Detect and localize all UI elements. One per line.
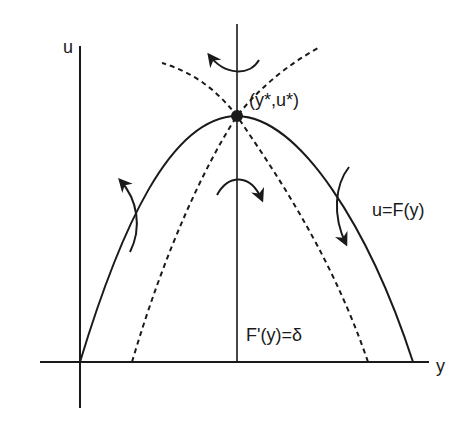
flow-arrow-top [209, 55, 259, 71]
equilibrium-point [231, 110, 243, 122]
curve-label: u=F(y) [372, 200, 425, 220]
flow-arrow-middle [217, 179, 262, 200]
u-axis-label: u [63, 37, 73, 57]
equilibrium-label: (y*,u*) [249, 90, 299, 110]
vertical-line-label: F'(y)=δ [246, 325, 302, 345]
y-axis-label: y [436, 356, 445, 376]
phase-diagram: u y (y*,u*) u=F(y) F'(y)=δ [0, 0, 472, 422]
